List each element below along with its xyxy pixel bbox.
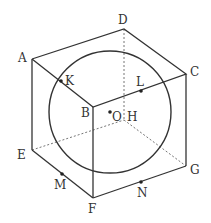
label-G: G	[190, 163, 200, 177]
label-N: N	[137, 186, 148, 200]
edge-HG	[124, 120, 186, 166]
cube-sphere-diagram: A B C D E F G H K L O M N	[0, 0, 211, 223]
point-N	[139, 180, 143, 184]
label-O: O	[112, 110, 122, 124]
point-L	[139, 89, 143, 93]
label-E: E	[17, 148, 26, 162]
edge-EH	[32, 120, 124, 150]
label-C: C	[190, 65, 199, 79]
label-A: A	[17, 51, 27, 65]
point-M	[60, 172, 64, 176]
point-K	[59, 79, 63, 83]
label-H: H	[127, 110, 137, 124]
label-M: M	[54, 178, 66, 192]
label-L: L	[136, 75, 144, 89]
label-F: F	[88, 202, 96, 216]
top-face	[32, 29, 186, 107]
label-K: K	[65, 74, 75, 88]
label-B: B	[81, 106, 90, 120]
label-D: D	[118, 13, 128, 27]
